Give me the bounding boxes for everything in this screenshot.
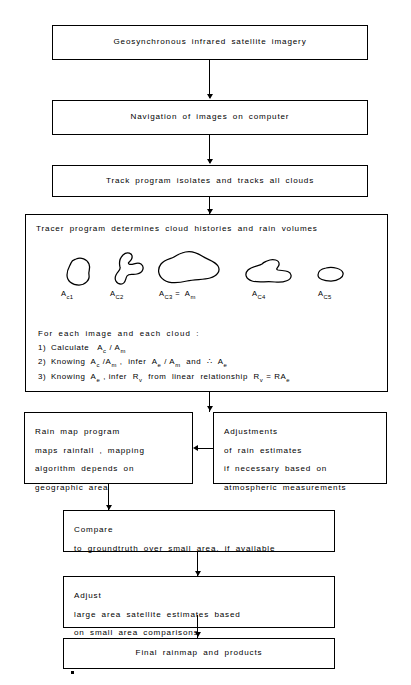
cloud-1-label: Ac1 (61, 289, 73, 300)
arrow-down-icon (207, 406, 213, 411)
formula-line-1: 1)Calculate Ac / Am (38, 341, 290, 356)
cloud-1-icon (62, 256, 96, 288)
node-tracer-program-heading: Tracer program determines cloud historie… (36, 224, 318, 233)
formula-intro: For each image and each cloud : (38, 327, 290, 341)
node-navigation: Navigation of images on computer (52, 100, 368, 135)
arrow-left-icon (193, 445, 198, 451)
node-track-program-label: Track program isolates and tracks all cl… (106, 175, 314, 188)
cloud-4-icon (243, 258, 293, 287)
node-adjust-label: Adjust large area satellite estimates ba… (74, 591, 241, 637)
node-compare-label: Compare to groundtruth over small area, … (74, 525, 275, 553)
cloud-shape-5 (316, 266, 346, 284)
node-final-rainmap-label: Final rainmap and products (136, 647, 263, 660)
formula-block: For each image and each cloud : 1)Calcul… (38, 327, 290, 385)
cloud-4-label: AC4 (252, 289, 266, 300)
cloud-2-label: AC2 (110, 289, 124, 300)
cloud-shape-2 (110, 251, 148, 288)
formula-line-3: 3)Knowing Ae , infer Rv from linear rela… (38, 370, 290, 385)
cloud-shape-1 (62, 256, 96, 288)
cloud-5-icon (316, 266, 346, 284)
node-navigation-label: Navigation of images on computer (131, 111, 290, 124)
edge-adjustments-to-rainmap (198, 448, 213, 449)
cloud-3-label: AC3 = Am (159, 289, 196, 300)
cloud-shape-3 (155, 250, 223, 288)
arrow-down-icon (207, 94, 213, 99)
formula-line-2: 2)Knowing Ac /Am , infer Ae / Am and ∴ A… (38, 355, 290, 370)
page-marker-dot (71, 671, 74, 674)
arrow-down-icon (195, 632, 201, 637)
arrow-down-icon (207, 159, 213, 164)
flowchart-page: Geosynchronous infrared satellite imager… (0, 0, 411, 685)
cloud-3-icon (155, 250, 223, 288)
node-compare: Compare to groundtruth over small area, … (63, 510, 335, 552)
node-final-rainmap: Final rainmap and products (63, 638, 335, 669)
node-rain-map-program-label: Rain map program maps rainfall , mapping… (35, 427, 145, 492)
cloud-2-icon (110, 251, 148, 288)
node-rain-map-program: Rain map program maps rainfall , mapping… (24, 412, 193, 484)
edge-imagery-to-navigation (209, 60, 210, 98)
node-adjustments-label: Adjustments of rain estimates if necessa… (224, 427, 346, 492)
node-satellite-imagery: Geosynchronous infrared satellite imager… (52, 25, 368, 60)
node-adjust: Adjust large area satellite estimates ba… (63, 576, 335, 628)
cloud-shape-4 (243, 258, 293, 287)
cloud-5-label: AC5 (318, 289, 332, 300)
node-track-program: Track program isolates and tracks all cl… (52, 165, 368, 197)
node-adjustments: Adjustments of rain estimates if necessa… (213, 412, 387, 484)
node-satellite-imagery-label: Geosynchronous infrared satellite imager… (113, 36, 306, 49)
